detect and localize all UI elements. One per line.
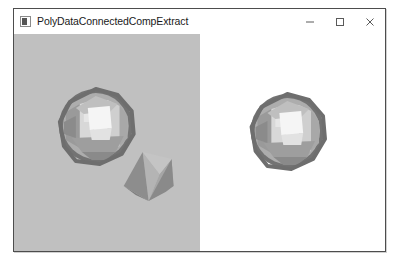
faceted-sphere <box>250 94 324 169</box>
minimize-icon <box>304 16 316 28</box>
application-window: PolyDataConnectedCompExtract <box>13 8 386 252</box>
window-title: PolyDataConnectedCompExtract <box>37 16 295 27</box>
render-area <box>14 34 385 251</box>
close-icon <box>364 16 376 28</box>
extracted-component-viewport[interactable] <box>200 34 386 251</box>
application-icon <box>20 16 31 27</box>
faceted-sphere <box>59 89 134 164</box>
minimize-button[interactable] <box>295 10 325 34</box>
faceted-cone <box>124 152 174 201</box>
maximize-icon <box>334 16 346 28</box>
input-polydata-viewport[interactable] <box>14 34 200 251</box>
title-bar: PolyDataConnectedCompExtract <box>14 9 385 34</box>
maximize-button[interactable] <box>325 10 355 34</box>
close-button[interactable] <box>355 10 385 34</box>
screenshot-root: PolyDataConnectedCompExtract <box>0 0 400 270</box>
